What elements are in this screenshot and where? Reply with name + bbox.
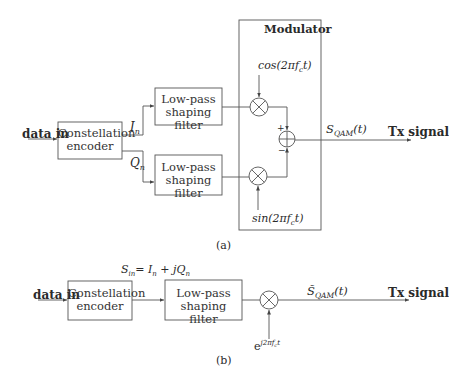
filter-label-b: Low-passshaping filter	[165, 287, 242, 326]
q-branch-label: Qn	[130, 157, 145, 172]
symbol-expression: Sin= In + jQn	[121, 264, 190, 278]
encoder-label-a: Constellationencoder	[58, 127, 122, 153]
adder-plus-sign: +	[277, 124, 285, 133]
filter-bottom-label: Low-passshaping filter	[155, 161, 222, 200]
caption-a: (a)	[216, 240, 231, 251]
i-branch-label: In	[130, 121, 140, 136]
adder-minus-sign: −	[278, 146, 286, 155]
tx-signal-label-a: Tx signal	[388, 126, 449, 138]
carrier-label-b: ej2πfct	[254, 340, 280, 352]
diagram-canvas	[0, 0, 449, 384]
modulator-title: Modulator	[264, 24, 332, 36]
tx-signal-label-b: Tx signal	[388, 287, 449, 299]
filter-top-label: Low-passshaping filter	[155, 93, 222, 132]
encoder-label-b: Constellationencoder	[68, 287, 132, 313]
multiplier-b-icon	[260, 291, 278, 309]
cos-carrier-label: cos(2πfct)	[258, 60, 312, 74]
sqam-output-label-b: S̃QAM(t)	[307, 286, 348, 300]
sin-carrier-label: sin(2πfct)	[252, 213, 303, 227]
caption-b: (b)	[216, 355, 232, 366]
multiplier-top-icon	[250, 98, 268, 116]
multiplier-bottom-icon	[249, 167, 267, 185]
sqam-output-label-a: SQAM(t)	[326, 124, 367, 138]
